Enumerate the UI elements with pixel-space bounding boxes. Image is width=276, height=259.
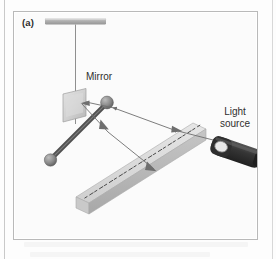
light-source-label-line2: source [220, 118, 250, 129]
flashlight [209, 134, 257, 170]
figure-page: (a) [0, 0, 276, 259]
ruler-ticks [85, 125, 201, 198]
mirror-label: Mirror [86, 71, 112, 83]
ruler [76, 123, 206, 214]
page-edge-line [272, 0, 273, 259]
pendulum-bob-upper [101, 96, 114, 109]
light-source-label: Light source [210, 106, 260, 129]
support-bar [45, 18, 106, 25]
figure-panel: (a) [13, 11, 258, 240]
page-gutter-line [4, 0, 5, 259]
pendulum-bob-lower [44, 154, 56, 166]
light-source-label-line1: Light [224, 106, 246, 117]
